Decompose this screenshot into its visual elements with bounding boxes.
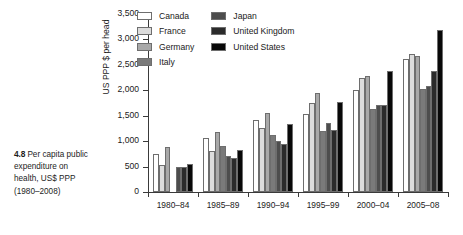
y-axis-label: US PPP $ per head (101, 0, 111, 117)
bar-group (403, 14, 442, 192)
caption-number: 4.8 (14, 149, 25, 159)
legend-swatch-icon (137, 58, 152, 66)
legend-item-japan[interactable]: Japan (211, 10, 294, 22)
bar-united-states[interactable] (187, 164, 193, 192)
y-tick-label: 3,500 (117, 8, 139, 18)
x-tick-label: 2005–08 (398, 200, 448, 210)
figure-caption: 4.8 Per capita public expenditure on hea… (14, 148, 92, 198)
x-tick-label: 1990–94 (248, 200, 298, 210)
bar-group (303, 14, 342, 192)
legend-column-1: CanadaFranceGermanyItaly (137, 10, 194, 68)
x-tick-mark (298, 192, 299, 197)
legend-label: United Kingdom (233, 26, 294, 36)
legend-label: Canada (159, 11, 189, 21)
legend-item-united-states[interactable]: United States (211, 41, 294, 53)
x-tick-mark (148, 192, 149, 197)
bar-united-states[interactable] (287, 124, 293, 192)
chart-legend: CanadaFranceGermanyItalyJapanUnited King… (137, 10, 295, 68)
x-tick-mark (398, 192, 399, 197)
legend-column-2: JapanUnited KingdomUnited States (211, 10, 294, 68)
x-tick-label: 1980–84 (148, 200, 198, 210)
legend-swatch-icon (137, 27, 152, 35)
y-tick-label: 2,000 (117, 84, 139, 94)
bar-germany[interactable] (165, 147, 171, 192)
x-tick-label: 2000–04 (348, 200, 398, 210)
y-tick-label: 500 (125, 161, 139, 171)
legend-item-france[interactable]: France (137, 25, 194, 37)
y-tick-label: 0 (134, 186, 139, 196)
legend-label: France (159, 26, 186, 36)
legend-label: Japan (233, 11, 256, 21)
legend-item-germany[interactable]: Germany (137, 41, 194, 53)
legend-item-united-kingdom[interactable]: United Kingdom (211, 25, 294, 37)
legend-label: Italy (159, 57, 175, 67)
x-tick-mark (448, 192, 449, 197)
bar-united-states[interactable] (337, 102, 343, 192)
x-tick-mark (248, 192, 249, 197)
legend-item-italy[interactable]: Italy (137, 56, 194, 68)
y-tick-label: 1,000 (117, 135, 139, 145)
x-tick-label: 1995–99 (298, 200, 348, 210)
y-tick-label: 2,500 (117, 59, 139, 69)
legend-swatch-icon (211, 43, 226, 51)
legend-swatch-icon (137, 12, 152, 20)
legend-item-canada[interactable]: Canada (137, 10, 194, 22)
legend-label: Germany (159, 42, 194, 52)
legend-swatch-icon (137, 43, 152, 51)
legend-swatch-icon (211, 12, 226, 20)
bar-united-states[interactable] (237, 150, 243, 192)
legend-label: United States (233, 42, 285, 52)
legend-swatch-icon (211, 27, 226, 35)
x-tick-mark (348, 192, 349, 197)
chart-area: US PPP $ per head 05001,0001,5002,0002,5… (92, 6, 458, 228)
bar-united-states[interactable] (437, 30, 443, 192)
x-tick-label: 1985–89 (198, 200, 248, 210)
y-tick-label: 1,500 (117, 110, 139, 120)
x-tick-mark (198, 192, 199, 197)
bar-united-states[interactable] (387, 71, 393, 192)
y-tick-label: 3,000 (117, 33, 139, 43)
bar-group (353, 14, 392, 192)
figure-4-8: 4.8 Per capita public expenditure on hea… (0, 0, 463, 235)
caption-text: Per capita public expenditure on health,… (14, 150, 88, 196)
